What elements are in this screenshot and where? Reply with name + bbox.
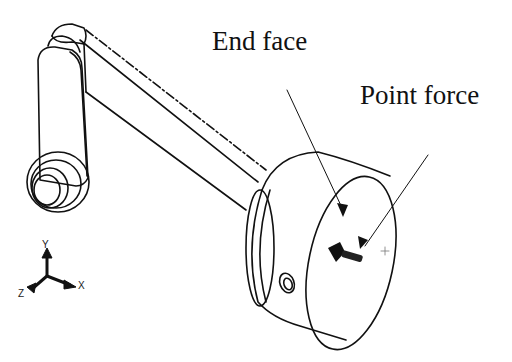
force-arrow-icon <box>328 242 363 263</box>
connecting-rod <box>80 30 266 210</box>
coordinate-triad-icon <box>27 248 76 293</box>
y-axis-label: Y <box>42 240 49 250</box>
piston <box>246 152 410 358</box>
crank-hub <box>27 152 89 212</box>
point-force-label: Point force <box>360 82 479 109</box>
z-axis-label: Z <box>18 289 24 299</box>
end-face-label: End face <box>212 28 307 55</box>
diagram-canvas: End face Point force Y X Z <box>0 0 512 362</box>
point-force-arrow-icon <box>358 236 368 249</box>
x-axis-label: X <box>78 281 85 291</box>
end-face-arrow-icon <box>337 203 348 217</box>
end-face-leader <box>287 90 343 210</box>
